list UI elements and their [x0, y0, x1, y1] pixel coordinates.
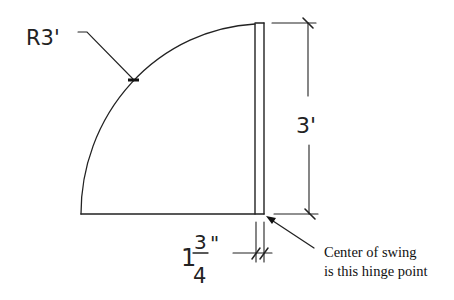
door-swing-diagram: R3' 3' 1 3 4 " Center of swing is this h…: [0, 0, 454, 300]
thickness-dimension: 1 3 4 ": [181, 222, 272, 288]
radius-callout: R3': [26, 26, 139, 80]
door-leaf: [255, 23, 264, 214]
thickness-denominator: 4: [193, 264, 206, 288]
thickness-numerator: 3: [194, 230, 207, 254]
radius-label: R3': [26, 26, 60, 50]
height-dimension: 3': [272, 18, 318, 219]
hinge-callout: Center of swing is this hinge point: [266, 216, 428, 279]
height-label: 3': [296, 113, 316, 138]
arrow-head-icon: [266, 216, 276, 224]
note-line-1: Center of swing: [324, 244, 417, 260]
thickness-unit: ": [210, 231, 219, 255]
note-line-2: is this hinge point: [324, 263, 428, 279]
